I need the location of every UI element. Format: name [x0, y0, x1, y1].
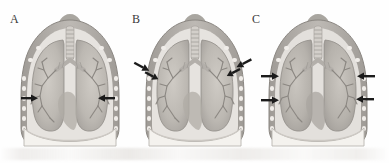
panel-c: C: [252, 0, 389, 163]
trachea: [314, 26, 322, 60]
trachea: [66, 26, 74, 60]
scan-artifact-band: [0, 148, 389, 160]
panel-a: A: [0, 0, 128, 163]
panel-b-illustration: [128, 0, 258, 163]
panel-a-label: A: [10, 12, 19, 27]
panel-b-label: B: [132, 12, 140, 27]
panel-c-label: C: [252, 12, 260, 27]
panel-a-illustration: [0, 0, 128, 163]
panel-b: B: [128, 0, 258, 163]
trachea: [191, 26, 199, 60]
panel-c-illustration: [252, 0, 389, 163]
figure-thorax-three-panels: A: [0, 0, 389, 163]
